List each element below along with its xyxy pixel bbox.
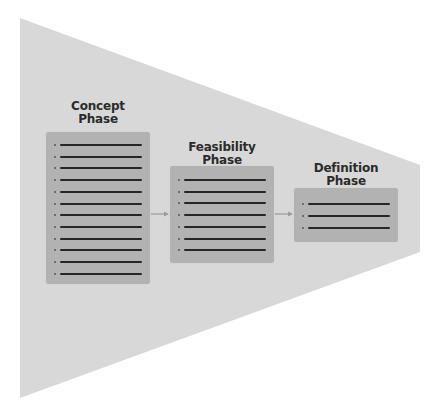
placeholder-text-line [184, 202, 266, 204]
bullet-icon [54, 203, 56, 205]
list-item [46, 143, 150, 147]
list-item [294, 202, 398, 206]
bullet-icon [54, 249, 56, 251]
placeholder-text-line [60, 226, 142, 228]
placeholder-text-line [184, 214, 266, 216]
bullet-icon [54, 273, 56, 275]
concept-phase-box [46, 132, 150, 284]
list-item [46, 166, 150, 170]
placeholder-text-line [184, 238, 266, 240]
list-item [46, 213, 150, 217]
bullet-icon [54, 226, 56, 228]
bullet-icon [54, 156, 56, 158]
bullet-icon [178, 214, 180, 216]
bullet-icon [302, 203, 304, 205]
bullet-icon [178, 191, 180, 193]
list-item [46, 260, 150, 264]
placeholder-text-line [60, 144, 142, 146]
bullet-icon [178, 179, 180, 181]
bullet-icon [54, 261, 56, 263]
list-item [170, 178, 274, 182]
placeholder-text-line [60, 214, 142, 216]
list-item [46, 155, 150, 159]
list-item [46, 178, 150, 182]
list-item [46, 248, 150, 252]
placeholder-text-line [60, 261, 142, 263]
placeholder-text-line [308, 215, 390, 217]
list-item [170, 213, 274, 217]
definition-phase-title: Definition Phase [294, 162, 398, 188]
placeholder-text-line [184, 249, 266, 251]
concept-phase-title: Concept Phase [48, 100, 148, 126]
bullet-icon [54, 144, 56, 146]
concept-phase-title-line2: Phase [48, 113, 148, 126]
list-item [294, 226, 398, 230]
bullet-icon [178, 202, 180, 204]
placeholder-text-line [184, 226, 266, 228]
list-item [170, 190, 274, 194]
bullet-icon [178, 238, 180, 240]
list-item [170, 225, 274, 229]
bullet-icon [302, 215, 304, 217]
list-item [46, 237, 150, 241]
feasibility-phase-box [170, 166, 274, 263]
bullet-icon [178, 249, 180, 251]
list-item [46, 272, 150, 276]
funnel-diagram: Concept Phase Feasibility Phase Definiti… [0, 0, 441, 417]
placeholder-text-line [60, 203, 142, 205]
list-item [46, 202, 150, 206]
list-item [46, 225, 150, 229]
definition-phase-title-line2: Phase [294, 175, 398, 188]
placeholder-text-line [308, 227, 390, 229]
bullet-icon [54, 179, 56, 181]
list-item [170, 248, 274, 252]
definition-phase-box [294, 188, 398, 242]
placeholder-text-line [60, 191, 142, 193]
list-item [170, 237, 274, 241]
bullet-icon [54, 167, 56, 169]
placeholder-text-line [308, 203, 390, 205]
list-item [294, 214, 398, 218]
feasibility-phase-title: Feasibility Phase [170, 141, 274, 167]
placeholder-text-line [60, 179, 142, 181]
placeholder-text-line [184, 191, 266, 193]
list-item [170, 201, 274, 205]
bullet-icon [178, 226, 180, 228]
bullet-icon [54, 238, 56, 240]
bullet-icon [54, 191, 56, 193]
placeholder-text-line [60, 249, 142, 251]
bullet-icon [54, 214, 56, 216]
placeholder-text-line [184, 179, 266, 181]
list-item [46, 190, 150, 194]
placeholder-text-line [60, 167, 142, 169]
bullet-icon [302, 227, 304, 229]
placeholder-text-line [60, 156, 142, 158]
placeholder-text-line [60, 273, 142, 275]
placeholder-text-line [60, 238, 142, 240]
